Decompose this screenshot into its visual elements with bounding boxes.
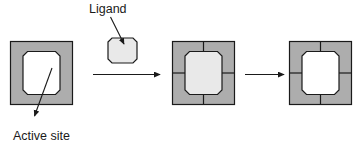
stage-enzyme-ligand-complex (173, 42, 235, 105)
ligand-label: Ligand (89, 2, 127, 16)
stage-free-enzyme (11, 42, 73, 105)
active-site-cavity-3 (302, 52, 339, 95)
diagram-canvas: Active site Ligand (0, 0, 361, 147)
active-site-label: Active site (13, 129, 70, 143)
bound-ligand-2 (185, 52, 222, 95)
active-site-cavity-1 (23, 52, 60, 95)
stage-enzyme-after-release (290, 42, 352, 105)
enzyme-ligand-diagram: Active site Ligand (0, 0, 361, 147)
